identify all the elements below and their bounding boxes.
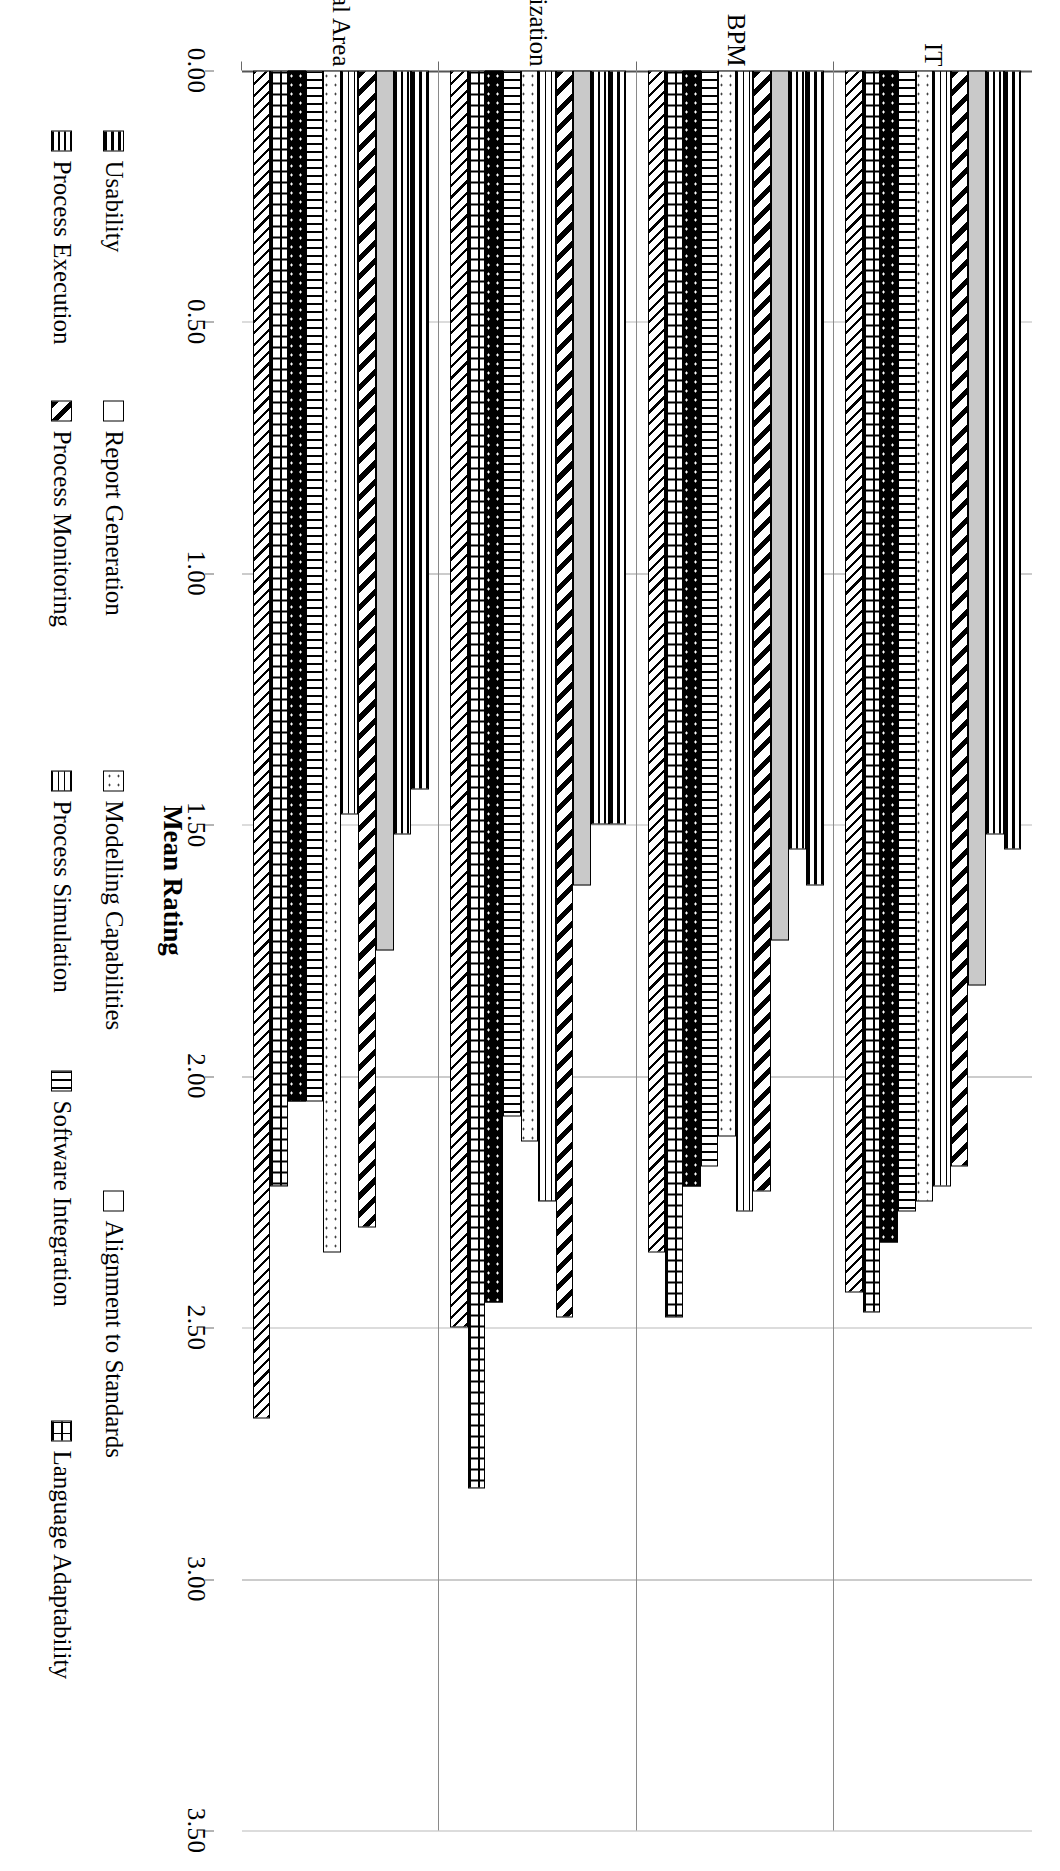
bar [933,70,951,1186]
bar [306,70,324,1101]
legend-swatch-icon [52,400,73,421]
legend-row-2: Process ExecutionProcess MonitoringProce… [32,70,76,1830]
rotated-page-wrapper: 0.000.501.001.502.002.503.003.50 ITBPMCo… [0,0,1060,1871]
bar [736,70,754,1211]
bar [288,70,306,1101]
legend-swatch-icon [52,770,73,791]
legend-label: Modelling Capabilities [100,800,128,1030]
bar [411,70,429,789]
bar [573,70,591,885]
category-label: IT [919,42,947,66]
legend-item[interactable]: Process Monitoring [48,400,76,627]
bar [916,70,934,1201]
value-tick-label: 3.50 [182,1807,210,1853]
legend-item[interactable]: Report Generation [100,400,128,615]
legend-item[interactable]: Software Integration [48,1070,76,1306]
plot-area: 0.000.501.001.502.002.503.003.50 ITBPMCo… [242,70,1032,1830]
legend-item[interactable]: Modelling Capabilities [100,770,128,1030]
legend-label: Process Simulation [48,800,76,992]
bar [253,70,271,1418]
legend-label: Usability [100,160,128,252]
category-label: Company Organization [524,0,552,66]
legend-swatch-icon [52,1420,73,1441]
bar-chart-figure: 0.000.501.001.502.002.503.003.50 ITBPMCo… [0,0,1060,1871]
bar [986,70,1004,834]
bar [270,70,288,1186]
legend-swatch-icon [52,1070,73,1091]
bar [556,70,574,1317]
legend-swatch-icon [104,770,125,791]
legend-swatch-icon [104,1190,125,1211]
category-tick [241,61,242,70]
legend-item[interactable]: Process Execution [48,130,76,344]
legend-swatch-icon [104,130,125,151]
bar [968,70,986,985]
legend-label: Process Monitoring [48,430,76,627]
bar [845,70,863,1292]
category-tick [439,61,440,70]
legend-swatch-icon [52,130,73,151]
category-tick [636,61,637,70]
bar-group [440,70,638,1830]
category-separator [439,70,440,1830]
bar [521,70,539,1141]
bar [880,70,898,1242]
bar [341,70,359,814]
bar [376,70,394,950]
category-label: Functional Area [327,0,355,66]
legend-label: Language Adaptability [48,1450,76,1678]
bar [683,70,701,1186]
bar [323,70,341,1252]
legend-label: Alignment to Standards [100,1220,128,1457]
bar [358,70,376,1227]
bar [468,70,486,1488]
bar [538,70,556,1201]
bar [701,70,719,1166]
bar [1004,70,1022,849]
legend-label: Process Execution [48,160,76,344]
bar [591,70,609,824]
bar [771,70,789,940]
legend-label: Software Integration [48,1100,76,1306]
bar [503,70,521,1116]
chart-legend: UsabilityReport GenerationModelling Capa… [18,70,128,1830]
bar [789,70,807,849]
category-separator [834,70,835,1830]
bar [450,70,468,1327]
bar [648,70,666,1252]
legend-label: Report Generation [100,430,128,615]
category-tick [834,61,835,70]
legend-item[interactable]: Alignment to Standards [100,1190,128,1457]
category-label: BPM [722,13,750,66]
bar-group [242,70,440,1830]
bar [753,70,771,1191]
y-axis-title: Mean Rating [157,0,188,1760]
bar [394,70,412,834]
bar [609,70,627,824]
bar [951,70,969,1166]
legend-swatch-icon [104,400,125,421]
bar [806,70,824,885]
bar [485,70,503,1302]
legend-item[interactable]: Language Adaptability [48,1420,76,1678]
bar-group [835,70,1033,1830]
category-separator [636,70,637,1830]
legend-item[interactable]: Usability [100,130,128,252]
bar [718,70,736,1136]
bar [665,70,683,1317]
legend-row-1: UsabilityReport GenerationModelling Capa… [84,70,128,1830]
bar [898,70,916,1211]
bar [863,70,881,1312]
legend-item[interactable]: Process Simulation [48,770,76,992]
bar-group [637,70,835,1830]
